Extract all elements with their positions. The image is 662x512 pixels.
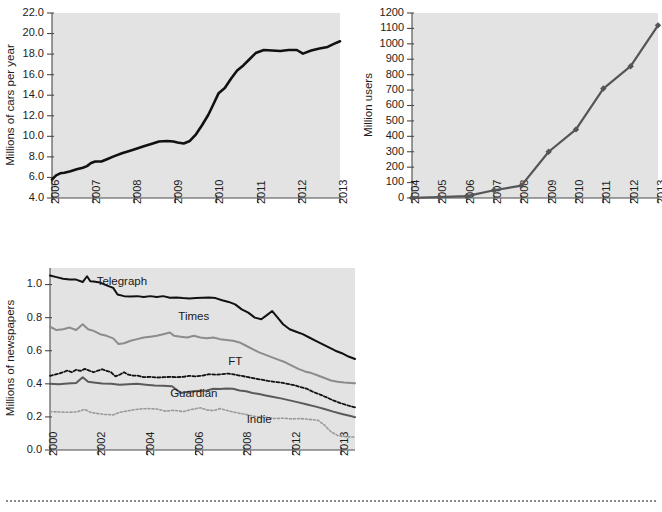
x-tick-label: 2007 [90, 180, 102, 204]
x-tick-label: 2010 [573, 180, 585, 204]
x-tick-label: 2012 [290, 432, 302, 456]
y-axis-newspapers: 0.00.20.40.60.81.0 [27, 277, 52, 454]
y-tick-label: 0 [398, 191, 404, 203]
x-tick-label: 2000 [47, 432, 59, 456]
y-tick-label: 400 [386, 129, 404, 141]
y-tick-label: 4.0 [29, 191, 44, 203]
y-tick-label: 0.4 [27, 377, 42, 389]
y-tick-label: 8.0 [29, 150, 44, 162]
y-tick-label: 10.0 [23, 129, 44, 141]
plot-background [52, 13, 340, 198]
plot-background [50, 268, 355, 450]
series-label-guardian: Guardian [170, 387, 217, 399]
y-tick-label: 18.0 [23, 47, 44, 59]
y-tick-label: 1200 [380, 6, 404, 18]
y-tick-label: 1.0 [27, 277, 42, 289]
x-tick-label: 2011 [600, 180, 612, 204]
x-tick-label: 2004 [409, 180, 421, 204]
y-tick-label: 200 [386, 160, 404, 172]
chart-million-users: 0100200300400500600700800900100011001200… [358, 0, 662, 240]
series-label-indie: Indie [247, 413, 272, 425]
chart-svg-cars: 4.06.08.010.012.014.016.018.020.022.0200… [0, 0, 348, 240]
x-tick-label: 2010 [213, 180, 225, 204]
y-tick-label: 20.0 [23, 26, 44, 38]
y-axis-title-newspapers: Millions of newspapers [4, 300, 16, 417]
x-tick-label: 2002 [95, 432, 107, 456]
y-tick-label: 1100 [380, 21, 404, 33]
series-label-times: Times [178, 310, 209, 322]
x-tick-label: 2013 [337, 180, 349, 204]
chart-cars-per-year: 4.06.08.010.012.014.016.018.020.022.0200… [0, 0, 348, 240]
x-tick-label: 2006 [193, 432, 205, 456]
y-tick-label: 800 [386, 68, 404, 80]
y-tick-label: 16.0 [23, 68, 44, 80]
chart-svg-users: 0100200300400500600700800900100011001200… [358, 0, 662, 240]
x-tick-label: 2004 [144, 432, 156, 456]
y-tick-label: 0.2 [27, 410, 42, 422]
series-label-ft: FT [228, 355, 242, 367]
y-tick-label: 0.8 [27, 311, 42, 323]
x-tick-label: 2008 [131, 180, 143, 204]
y-tick-label: 700 [386, 83, 404, 95]
y-tick-label: 0.0 [27, 443, 42, 455]
y-tick-label: 600 [386, 98, 404, 110]
x-tick-label: 2009 [172, 180, 184, 204]
y-tick-label: 22.0 [23, 6, 44, 18]
chart-svg-newspapers: 0.00.20.40.60.81.02000200220042006200820… [0, 258, 400, 488]
series-label-telegraph: Telegraph [97, 275, 148, 287]
y-axis-cars: 4.06.08.010.012.014.016.018.020.022.0 [23, 6, 54, 203]
y-tick-label: 900 [386, 52, 404, 64]
y-tick-label: 6.0 [29, 170, 44, 182]
x-tick-label: 2011 [255, 180, 267, 204]
x-tick-label: 2005 [436, 180, 448, 204]
chart-newspaper-circulation: 0.00.20.40.60.81.02000200220042006200820… [0, 258, 400, 488]
x-tick-label: 2013 [655, 180, 662, 204]
y-axis-users: 0100200300400500600700800900100011001200 [380, 6, 414, 203]
x-tick-label: 2006 [464, 180, 476, 204]
x-tick-label: 2008 [241, 432, 253, 456]
y-tick-label: 0.6 [27, 344, 42, 356]
y-tick-label: 14.0 [23, 88, 44, 100]
y-tick-label: 100 [386, 175, 404, 187]
y-tick-label: 12.0 [23, 109, 44, 121]
x-tick-label: 2012 [628, 180, 640, 204]
x-tick-label: 2012 [296, 180, 308, 204]
y-tick-label: 1000 [380, 37, 404, 49]
y-tick-label: 300 [386, 145, 404, 157]
footer-dotted-rule [6, 500, 656, 504]
y-tick-label: 500 [386, 114, 404, 126]
y-axis-title-users: Million users [362, 73, 374, 137]
x-tick-label: 2009 [546, 180, 558, 204]
y-axis-title-cars: Millions of cars per year [4, 44, 16, 166]
x-tick-label: 2006 [49, 180, 61, 204]
